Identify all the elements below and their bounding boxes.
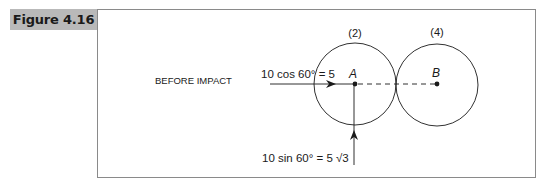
ball-b-mass-label: (4) (430, 26, 443, 38)
ball-a-label: A (348, 67, 357, 81)
ball-b-label: B (432, 66, 440, 80)
ball-a-mass-label: (2) (348, 27, 361, 39)
horizontal-component-label: 10 cos 60° = 5 (261, 68, 335, 80)
ball-a-center-dot (353, 82, 358, 87)
ball-b-center-dot (435, 82, 440, 87)
vertical-component-label: 10 sin 60° = 5 √3 (262, 152, 349, 164)
collision-diagram: BEFORE IMPACT (2) (4) 10 cos 60° = 5 A B… (0, 0, 545, 184)
before-impact-caption: BEFORE IMPACT (155, 75, 232, 86)
